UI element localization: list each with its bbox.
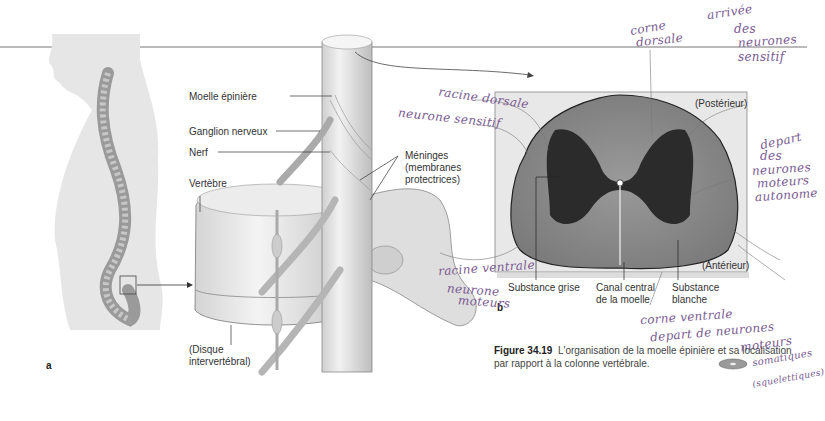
central-canal <box>617 180 623 186</box>
label-disc-2: intervertébral) <box>189 356 251 368</box>
note-arrival-4: sensitif <box>738 51 785 63</box>
label-central-canal-2: de la moelle <box>596 294 650 306</box>
note-arrival-2: des <box>734 23 756 35</box>
label-meninges-1: Méninges <box>405 150 448 162</box>
label-meninges-3: protectrices) <box>405 174 460 186</box>
label-white-matter-1: Substance <box>672 282 719 294</box>
note-motor-neuron-2: moteurs <box>458 294 511 310</box>
label-grey-matter: Substance grise <box>508 282 580 294</box>
label-vertebra: Vertèbre <box>189 178 227 190</box>
figure-number: Figure 34.19 <box>494 345 552 356</box>
label-anterior: (Antérieur) <box>702 260 749 272</box>
label-white-matter-2: blanche <box>672 294 707 306</box>
note-autonomic-5: autonome <box>755 187 818 203</box>
label-spinal-cord: Moelle épinière <box>189 91 257 103</box>
figure-caption: Figure 34.19 L'organisation de la moelle… <box>494 344 794 370</box>
note-autonomic-2: des <box>760 150 782 162</box>
label-ganglion: Ganglion nerveux <box>189 126 267 138</box>
label-nerve: Nerf <box>189 147 208 159</box>
label-central-canal-1: Canal central <box>596 282 655 294</box>
panel-letter-a: a <box>46 360 52 371</box>
label-meninges-2: (membranes <box>405 162 461 174</box>
label-disc-1: (Disque <box>189 344 223 356</box>
label-posterior: (Postérieur) <box>695 98 747 110</box>
